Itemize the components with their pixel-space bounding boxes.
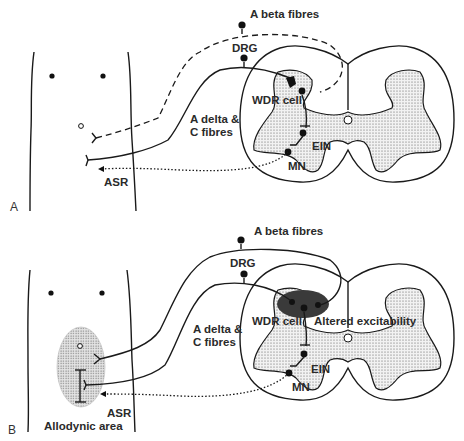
label-a-delta-a: A delta & xyxy=(190,113,239,125)
nipple-right-icon xyxy=(100,73,105,78)
label-drg-a: DRG xyxy=(232,42,258,54)
navel-icon-b xyxy=(78,344,83,349)
pain-pathway-diagram: A beta fibres DRG A delta & C fibres WDR… xyxy=(0,0,464,441)
ein-cell-a xyxy=(300,130,307,137)
drg-ganglion-a xyxy=(240,54,247,61)
label-a-beta-a: A beta fibres xyxy=(250,8,319,20)
label-wdr-b: WDR cell xyxy=(252,315,302,327)
body-outline-left-b xyxy=(28,270,30,432)
label-drg-b: DRG xyxy=(230,257,256,269)
panel-label-a: A xyxy=(10,200,18,214)
asr-efferent-b xyxy=(104,373,289,396)
label-ein-b: EIN xyxy=(311,363,330,375)
a-delta-ending-a xyxy=(86,155,88,166)
a-beta-ganglion-a xyxy=(238,21,245,28)
body-outline-left xyxy=(30,52,34,211)
asr-arrow-a xyxy=(98,166,104,172)
nipple-right-icon-b xyxy=(99,290,104,295)
label-mn-b: MN xyxy=(292,381,310,393)
label-a-beta-b: A beta fibres xyxy=(254,225,323,237)
central-canal-a xyxy=(344,116,352,124)
panel-a: A beta fibres DRG A delta & C fibres WDR… xyxy=(10,8,454,214)
asr-arrow-b xyxy=(100,391,106,397)
label-altered-excitability: Altered excitability xyxy=(314,315,417,327)
drg-ganglion-b xyxy=(240,270,247,277)
label-asr-a: ASR xyxy=(104,176,129,188)
wdr-cell-b xyxy=(301,305,308,312)
ein-cell-b xyxy=(301,351,308,358)
label-c-fibres-b: C fibres xyxy=(193,336,236,348)
a-beta-ending-a xyxy=(92,133,96,143)
a-beta-ganglion-b xyxy=(237,236,244,243)
label-ein-a: EIN xyxy=(312,140,331,152)
nipple-left-icon xyxy=(49,73,54,78)
allodynic-area-zone xyxy=(57,327,105,407)
label-a-delta-b: A delta & xyxy=(193,323,242,335)
body-outline-right xyxy=(128,52,136,211)
label-mn-a: MN xyxy=(288,160,306,172)
nipple-left-icon-b xyxy=(48,290,53,295)
panel-b: A beta fibres DRG A delta & C fibres WDR… xyxy=(8,225,454,437)
label-wdr-a: WDR cell xyxy=(252,94,302,106)
label-allodynic-area: Allodynic area xyxy=(44,420,123,432)
panel-label-b: B xyxy=(8,423,16,437)
label-asr-b: ASR xyxy=(107,407,132,419)
label-c-fibres-a: C fibres xyxy=(190,126,233,138)
navel-icon xyxy=(79,124,84,129)
central-canal-b xyxy=(344,334,352,342)
